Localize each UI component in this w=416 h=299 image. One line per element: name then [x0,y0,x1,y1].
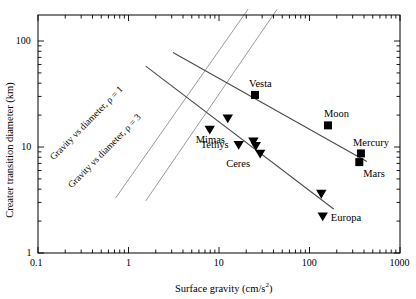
x-tick-label: 100 [302,257,317,268]
x-tick-label: 10 [214,257,224,268]
marker-triangle [255,150,265,159]
y-tick-label: 10 [21,141,31,152]
ice-trend [146,66,334,209]
marker-triangle [233,141,243,150]
fit-lines-group [146,52,367,209]
label-mars: Mars [363,168,385,179]
x-tick-label: 0.1 [30,257,43,268]
marker-square [357,149,365,157]
x-axis-title-tail: ) [269,283,273,294]
marker-square [355,158,363,166]
marker-square [251,91,259,99]
y-axis-title: Creater transition diameter (km) [2,0,16,299]
marker-triangle [223,114,233,123]
label-mercury: Mercury [353,137,389,148]
marker-triangle [251,142,261,151]
label-ceres: Ceres [226,158,250,169]
x-axis-title: Surface gravity (cm/s2) [175,281,272,294]
label-vesta: Vesta [249,78,272,89]
y-tick-label: 100 [16,35,31,46]
chart-figure: 0.11101001000 110100 VestaMoonMercuryMar… [0,0,416,299]
label-moon: Moon [324,108,349,119]
gravity-vs-diameter-rho1 [116,9,249,198]
x-axis-title-text: Surface gravity (cm/s [175,283,265,294]
y-axis-title-text: Creater transition diameter (km) [4,82,15,218]
x-tick-label: 1 [126,257,131,268]
label-tethys: Tethys [201,139,229,150]
x-tick-label: 1000 [390,257,410,268]
marker-square [324,121,332,129]
marker-triangle [318,213,328,222]
gravity-vs-diameter-rho3 [146,9,278,201]
y-tick-label: 1 [27,247,32,258]
label-europa: Europa [331,212,361,223]
